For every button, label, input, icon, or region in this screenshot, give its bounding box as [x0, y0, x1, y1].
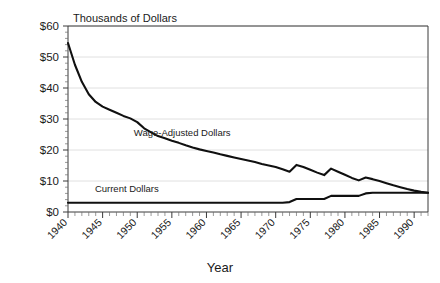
chart-container: $0$10$20$30$40$50$60 1940194519501955196… — [0, 0, 440, 283]
y-tick-label: $60 — [40, 20, 59, 32]
line-chart: $0$10$20$30$40$50$60 1940194519501955196… — [0, 0, 440, 283]
y-tick-label: $50 — [40, 51, 59, 63]
y-tick-label: $10 — [40, 175, 59, 187]
x-axis-title: Year — [207, 260, 234, 275]
y-tick-label: $40 — [40, 82, 59, 94]
current-dollars-label: Current Dollars — [95, 183, 159, 194]
y-tick-label: $30 — [40, 113, 59, 125]
wage-adjusted-dollars-label: Wage-Adjusted Dollars — [134, 127, 231, 138]
y-axis-title: Thousands of Dollars — [73, 12, 177, 24]
chart-background — [0, 0, 440, 283]
y-tick-label: $20 — [40, 144, 59, 156]
y-tick-label: $0 — [46, 206, 59, 218]
